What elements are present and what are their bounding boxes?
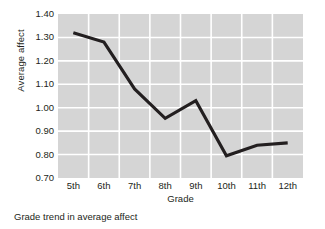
y-tick-label: 0.90: [22, 126, 54, 136]
y-axis-tick-labels: 0.700.800.901.001.101.201.301.40: [22, 8, 54, 188]
y-tick-label: 1.30: [22, 32, 54, 42]
vertical-gridlines: [89, 14, 273, 178]
chart-figure: Average affect 0.700.800.901.001.101.201…: [0, 0, 325, 229]
y-tick-label: 1.00: [22, 103, 54, 113]
y-tick-label: 0.70: [22, 173, 54, 183]
chart-plot-svg: [58, 14, 303, 178]
plot-area: [58, 14, 303, 178]
y-tick-label: 1.40: [22, 9, 54, 19]
figure-caption: Grade trend in average affect: [14, 211, 137, 222]
y-tick-label: 1.20: [22, 56, 54, 66]
y-tick-label: 0.80: [22, 150, 54, 160]
x-axis-title: Grade: [58, 193, 303, 204]
x-tick-label: 12th: [268, 180, 308, 192]
y-tick-label: 1.10: [22, 79, 54, 89]
x-axis-tick-labels: 5th6th7th8th9th10th11th12th: [58, 180, 303, 194]
